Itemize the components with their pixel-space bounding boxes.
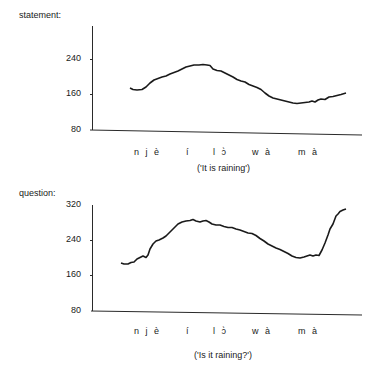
question-syllable-wa: w à — [252, 326, 272, 336]
question-syllable-lo: l ɔ̀ — [213, 326, 228, 336]
question-plot — [0, 0, 382, 371]
question-syllable-ma: m à — [298, 326, 319, 336]
question-axes — [90, 205, 362, 315]
x-axis — [91, 311, 362, 315]
question-f0-curve — [121, 209, 346, 264]
question-caption: ('Is it raining?') — [194, 350, 252, 360]
question-syllable-i: í — [186, 326, 191, 336]
question-syllable-nje: n j è — [134, 326, 161, 336]
